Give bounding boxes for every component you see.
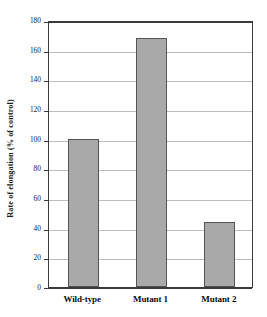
y-axis-tick-label: 60 [15, 195, 41, 202]
bar [68, 139, 99, 287]
gridline [49, 288, 252, 289]
y-axis-tick [44, 200, 49, 201]
y-axis-tick-label: 40 [15, 225, 41, 232]
bar [204, 222, 235, 287]
y-axis-tick-label: 80 [15, 165, 41, 172]
y-axis-tick-label: 180 [15, 17, 41, 24]
gridline [49, 22, 252, 23]
y-axis-tick-label: 120 [15, 106, 41, 113]
y-axis-tick-label: 160 [15, 47, 41, 54]
plot-area [48, 21, 253, 288]
y-axis-tick [44, 81, 49, 82]
bar [136, 38, 167, 287]
y-axis-tick-label: 100 [15, 136, 41, 143]
y-axis-tick-label: 20 [15, 254, 41, 261]
y-axis-tick-label: 140 [15, 76, 41, 83]
y-axis-tick [44, 259, 49, 260]
bar-chart-figure: Rate of elongation (% of control) 020406… [0, 0, 267, 317]
y-axis-tick [44, 52, 49, 53]
y-axis-tick [44, 230, 49, 231]
y-axis-tick [44, 22, 49, 23]
y-axis-tick [44, 288, 49, 289]
y-axis-tick [44, 170, 49, 171]
y-axis-tick-label: 0 [15, 284, 41, 291]
x-axis-category-label: Mutant 2 [174, 294, 264, 304]
y-axis-tick [44, 111, 49, 112]
y-axis-tick [44, 141, 49, 142]
